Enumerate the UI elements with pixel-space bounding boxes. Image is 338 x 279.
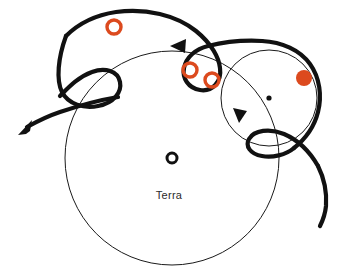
terra-body-icon [167, 153, 177, 163]
terra-label-text: Terra [156, 189, 183, 201]
terra-label: Terra [0, 189, 338, 201]
planet-marker-filled-right [296, 70, 312, 86]
arrow-trajectory-exit-left-icon [18, 120, 32, 135]
epicycle-center-dot [266, 95, 271, 100]
trajectory-upper-sweep [66, 11, 220, 68]
epicycle-diagram-svg [0, 0, 338, 279]
arrow-epicycle-right-icon [233, 108, 247, 123]
figure-root: Terra [0, 0, 338, 279]
planet-marker-upper-left [107, 20, 121, 34]
deferent-main-orbit [65, 51, 279, 265]
